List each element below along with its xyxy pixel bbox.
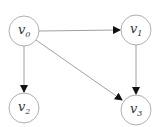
node-v0: v0 xyxy=(9,16,39,46)
edge-v0-v3 xyxy=(36,40,122,100)
node-v3: v3 xyxy=(121,95,151,125)
node-v1: v1 xyxy=(121,15,151,45)
node-v2: v2 xyxy=(9,93,39,123)
edge-v0-v1 xyxy=(39,30,120,31)
graph-diagram: v0 v1 v2 v3 xyxy=(0,0,156,127)
edges xyxy=(24,30,136,100)
